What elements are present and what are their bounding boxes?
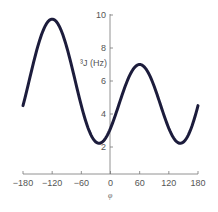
y-tick-label: 8 bbox=[101, 43, 106, 53]
x-tick-label: 120 bbox=[161, 178, 176, 188]
y-tick-label: 6 bbox=[101, 76, 106, 86]
x-tick-label: −180 bbox=[13, 178, 33, 188]
x-tick-label: 60 bbox=[135, 178, 145, 188]
chart: −180−120−60060120180 246810 ³J (Hz) φ bbox=[0, 0, 218, 212]
y-tick-label: 4 bbox=[101, 109, 106, 119]
x-tick-label: 0 bbox=[108, 178, 113, 188]
x-tick-label: 180 bbox=[190, 178, 205, 188]
y-tick-label: 10 bbox=[96, 10, 106, 20]
y-axis-label: ³J (Hz) bbox=[80, 58, 107, 68]
x-tick-label: −120 bbox=[42, 178, 62, 188]
x-axis-label: φ bbox=[108, 191, 113, 200]
x-ticks: −180−120−60060120180 bbox=[13, 171, 206, 188]
x-tick-label: −60 bbox=[74, 178, 89, 188]
